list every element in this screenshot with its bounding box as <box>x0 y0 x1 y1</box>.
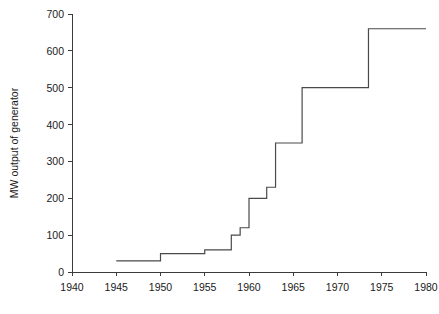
x-tick-label: 1970 <box>326 281 350 293</box>
y-tick-label: 400 <box>46 119 64 131</box>
y-tick-label: 600 <box>46 45 64 57</box>
x-tick-label: 1955 <box>193 281 217 293</box>
y-tick-label: 0 <box>58 266 64 278</box>
x-tick-label: 1960 <box>237 281 261 293</box>
x-tick-label: 1980 <box>414 281 438 293</box>
x-tick-label: 1950 <box>149 281 173 293</box>
x-tick-label: 1940 <box>60 281 84 293</box>
step-series-line <box>116 29 426 261</box>
x-axis-tick-labels: 194019451950195519601965197019751980 <box>60 281 438 293</box>
y-axis-tick-marks <box>68 14 72 272</box>
x-tick-label: 1945 <box>105 281 129 293</box>
x-tick-label: 1975 <box>370 281 394 293</box>
x-axis-tick-marks <box>72 272 426 276</box>
y-tick-label: 100 <box>46 229 64 241</box>
y-tick-label: 700 <box>46 8 64 20</box>
y-tick-label: 500 <box>46 82 64 94</box>
x-tick-label: 1965 <box>282 281 306 293</box>
y-axis-tick-labels: 0100200300400500600700 <box>46 8 64 278</box>
step-chart: 0100200300400500600700 19401945195019551… <box>0 0 439 314</box>
y-axis-label: MW output of generator <box>8 87 20 198</box>
chart-canvas: 0100200300400500600700 19401945195019551… <box>0 0 439 314</box>
y-tick-label: 200 <box>46 192 64 204</box>
y-tick-label: 300 <box>46 155 64 167</box>
